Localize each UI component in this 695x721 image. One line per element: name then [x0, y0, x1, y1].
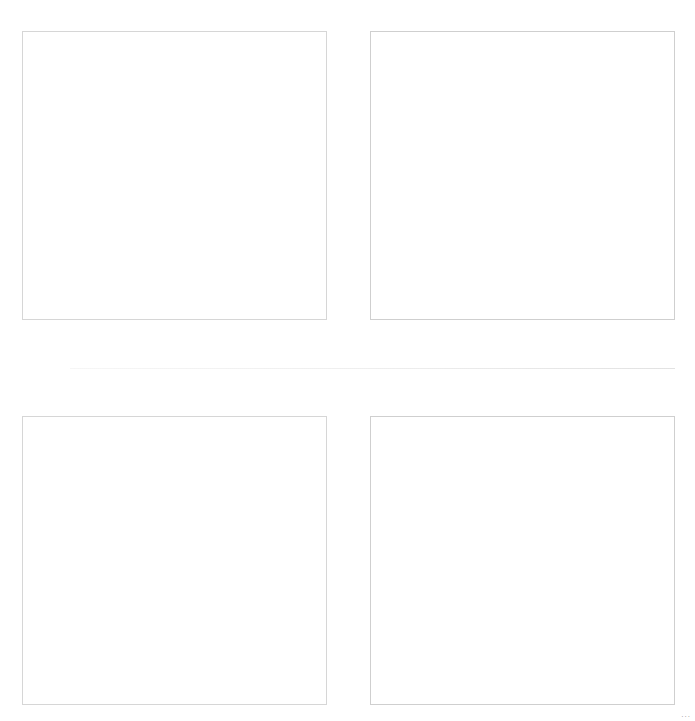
panel-top-right — [370, 31, 675, 320]
panel-top-left — [22, 31, 327, 320]
panel-bottom-right — [370, 416, 675, 705]
corner-ellipsis-mark: ... — [681, 710, 691, 719]
horizontal-divider — [70, 368, 675, 369]
panel-bottom-left — [22, 416, 327, 705]
